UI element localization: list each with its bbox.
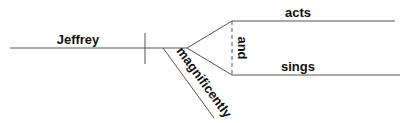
modifier-word: magnificently: [174, 44, 236, 121]
subject-word: Jeffrey: [57, 32, 100, 47]
predicate-word-upper: acts: [285, 5, 311, 20]
conjunction-word: and: [235, 36, 250, 59]
predicate-word-lower: sings: [281, 59, 315, 74]
upper-fork-branch: [187, 21, 232, 48]
sentence-diagram: Jeffrey acts sings and magnificently: [0, 0, 401, 123]
